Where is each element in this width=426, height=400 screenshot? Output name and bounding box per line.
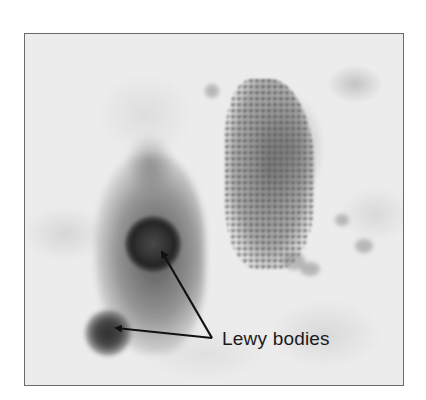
annotation-arrows — [0, 0, 426, 400]
lewy-bodies-label: Lewy bodies — [222, 328, 330, 350]
arrow-to-upper-lewy-body — [162, 252, 212, 338]
arrow-to-lower-lewy-body — [116, 328, 212, 338]
